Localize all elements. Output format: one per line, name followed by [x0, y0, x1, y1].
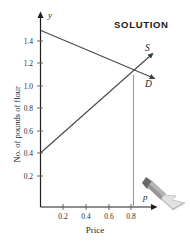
solution-heading: SOLUTION — [114, 20, 169, 30]
y-tick-label-1: 1.4 — [11, 38, 33, 46]
pencil-cursor-icon — [142, 176, 188, 218]
demand-curve-label: D — [145, 80, 152, 90]
x-axis-title: Price — [0, 226, 190, 235]
x-tick-label-3: 0.6 — [97, 213, 121, 221]
x-tick-label-4: 0.8 — [119, 213, 143, 221]
x-tick-label-2: 0.4 — [74, 213, 98, 221]
y-axis-variable-label: y — [48, 11, 52, 20]
y-axis-title: No. of pounds of flour — [13, 54, 22, 194]
x-tick-label-1: 0.2 — [51, 213, 75, 221]
supply-demand-figure: 1.4 1.2 1.0 0.8 0.6 0.4 0.2 0.2 0.4 0.6 … — [0, 0, 190, 243]
supply-curve-label: S — [145, 44, 150, 54]
